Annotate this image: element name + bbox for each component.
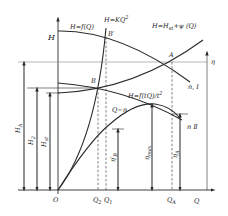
dashed-verticals	[98, 37, 172, 190]
reference-lines	[18, 62, 207, 129]
origin-label: O	[53, 196, 59, 204]
efficiency-label: Q−η	[112, 106, 127, 114]
reduced-head-label: H=f(tQ)/t2	[127, 90, 163, 100]
eta-axis-label: η	[211, 58, 215, 66]
hst-label: Hst	[40, 136, 49, 148]
dimension-arrows	[24, 63, 180, 190]
q2-tick-label: Q2	[93, 196, 102, 205]
curves	[58, 28, 203, 190]
ha-label: HA	[14, 123, 23, 134]
point-b-prime-label: B′	[107, 30, 115, 38]
eta-max-label: ηmax	[143, 145, 152, 160]
parabola-curve	[58, 28, 106, 190]
eta-b-label: η′B	[109, 153, 118, 162]
h2-label: H2	[27, 136, 36, 146]
speed-2-label: n Ⅱ	[187, 123, 198, 131]
speed-1-label: n, Ⅰ	[188, 83, 199, 91]
reduced-head-curve	[58, 83, 182, 120]
qa-tick-label: QA	[167, 196, 176, 205]
parabola-label: H=KQ2	[103, 14, 129, 24]
q-axis-label: Q	[194, 197, 200, 205]
pump-curve-diagram: H η Q O H=f(Q) H=KQ2 H=Hst+ψ (Q) H=f(tQ)…	[0, 0, 228, 216]
system-label: H=Hst+ψ (Q)	[151, 22, 197, 31]
efficiency-curve	[58, 104, 180, 190]
labels: H η Q O H=f(Q) H=KQ2 H=Hst+ψ (Q) H=f(tQ)…	[14, 14, 215, 205]
point-b-label: B	[90, 77, 96, 85]
q1-tick-label: Q1	[104, 196, 113, 205]
point-a-label: A	[168, 51, 174, 59]
pump-head-label: H=f(Q)	[69, 23, 94, 31]
h-axis-label: H	[47, 33, 56, 42]
